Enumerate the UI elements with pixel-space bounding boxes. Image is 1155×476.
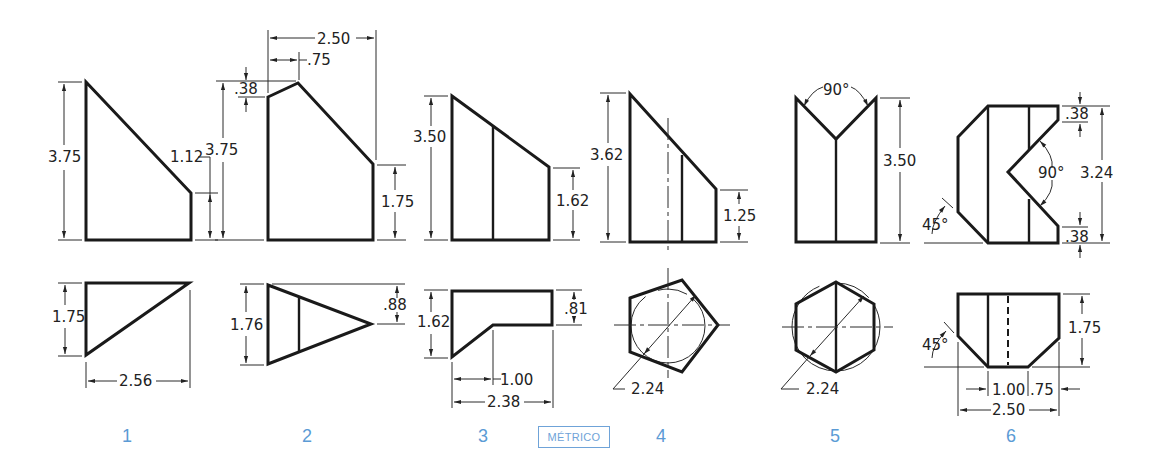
dim-angle: 90° [823, 81, 850, 99]
dim-total-height: 3.75 [48, 148, 81, 166]
figure-4: 3.62 1.25 2.24 [590, 93, 756, 398]
figure-label-5: 5 [820, 426, 850, 447]
dim-peak-offset: .75 [307, 51, 331, 69]
dim-right-depth: .81 [564, 300, 588, 318]
dim-right-offset: .75 [1030, 381, 1054, 399]
dim-width: 2.56 [119, 372, 152, 390]
figure-2: 2.50 .75 .38 3.75 1.75 [205, 30, 414, 365]
dim-total-height: 3.62 [590, 146, 623, 164]
figure-5-top-view: 2.24 [781, 282, 893, 398]
figure-1-front-view: 3.75 1.12 [48, 82, 218, 240]
dim-notch-width: 1.00 [500, 371, 533, 389]
dim-total-width: 2.50 [317, 30, 350, 48]
dim-depth: 1.62 [417, 313, 450, 331]
dim-peak-rise: .38 [234, 80, 258, 98]
figure-6-top-view: 1.75 45° 1.00 .75 2.50 [922, 294, 1101, 419]
figure-5: 90° 3.50 2.24 [781, 81, 916, 398]
dim-depth: 1.76 [230, 316, 263, 334]
dim-right-height: 1.62 [556, 192, 589, 210]
figure-6: .38 .38 3.24 90° 45° [922, 92, 1113, 419]
dim-bottom-offset: .38 [1065, 228, 1089, 246]
dim-total-height: 3.75 [205, 141, 238, 159]
dim-depth: 1.75 [52, 308, 85, 326]
dim-angle-v: 90° [1038, 164, 1065, 182]
figure-2-top-view: 1.76 .88 [230, 284, 407, 365]
dim-right-height: 1.12 [170, 148, 203, 166]
figure-label-4: 4 [646, 426, 676, 447]
dim-right-height: 1.75 [381, 193, 414, 211]
metric-badge: MÉTRICO [538, 426, 610, 448]
dim-chamfer-angle: 45° [922, 336, 949, 354]
figure-label-6: 6 [996, 426, 1026, 447]
dim-total-height: 3.50 [883, 152, 916, 170]
dim-diameter: 2.24 [806, 380, 839, 398]
dim-depth: 1.75 [1068, 319, 1101, 337]
figure-6-front-view: .38 .38 3.24 90° 45° [922, 92, 1113, 258]
figure-3-top-view: 1.62 .81 1.00 2.38 [417, 290, 588, 411]
figure-label-2: 2 [292, 426, 322, 447]
figure-3-front-view: 3.50 1.62 [413, 96, 589, 240]
figure-label-3: 3 [468, 426, 498, 447]
figure-5-front-view: 90° 3.50 [796, 81, 916, 243]
dim-right-height: 1.25 [723, 207, 756, 225]
figure-1-top-view: 1.75 2.56 [52, 283, 190, 390]
dim-total-height: 3.50 [413, 128, 446, 146]
drawing-sheet: 3.75 1.12 1.75 2.56 [0, 0, 1155, 476]
figure-3: 3.50 1.62 1.62 .81 1.00 [413, 96, 589, 411]
figure-label-1: 1 [112, 426, 142, 447]
figure-4-top-view: 2.24 [613, 268, 730, 398]
figure-2-front-view: 2.50 .75 .38 3.75 1.75 [205, 30, 414, 240]
figure-4-front-view: 3.62 1.25 [590, 93, 756, 252]
dim-total-height: 3.24 [1080, 164, 1113, 182]
dim-width: 2.50 [992, 401, 1025, 419]
dim-width: 2.38 [487, 393, 520, 411]
dim-apex-offset: .88 [383, 296, 407, 314]
dim-diameter: 2.24 [631, 380, 664, 398]
dim-top-offset: .38 [1065, 105, 1089, 123]
dim-center-width: 1.00 [992, 381, 1025, 399]
figure-1: 3.75 1.12 1.75 2.56 [48, 82, 218, 390]
dim-chamfer-angle: 45° [922, 216, 949, 234]
